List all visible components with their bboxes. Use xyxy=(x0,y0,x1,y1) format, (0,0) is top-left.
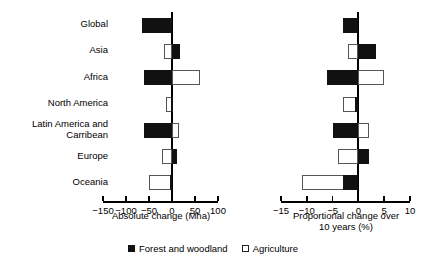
x-axis-end-cap xyxy=(409,196,411,201)
plot-area xyxy=(0,12,426,198)
figure-root: GlobalAsiaAfricaNorth AmericaLatin Ameri… xyxy=(0,0,426,265)
x-axis-tick xyxy=(358,196,360,201)
bar-forest xyxy=(355,97,358,112)
bar-agriculture xyxy=(358,123,368,138)
bar-agriculture xyxy=(338,149,359,164)
bar-forest xyxy=(358,44,376,59)
bar-forest xyxy=(144,70,172,85)
legend-item-agriculture: Agriculture xyxy=(242,243,298,254)
bar-forest xyxy=(171,97,173,112)
x-axis-tick xyxy=(383,196,385,201)
chart-legend: Forest and woodland Agriculture xyxy=(0,243,426,254)
legend-swatch-agriculture-icon xyxy=(242,245,249,252)
x-axis-title: Proportional change over 10 years (%) xyxy=(272,210,420,232)
bar-agriculture xyxy=(149,175,172,190)
bar-agriculture xyxy=(358,70,384,85)
bar-forest xyxy=(144,123,172,138)
bar-forest xyxy=(172,44,180,59)
x-axis-line xyxy=(103,201,218,203)
x-axis-tick xyxy=(306,196,308,201)
bar-forest xyxy=(172,149,177,164)
bar-agriculture xyxy=(172,123,179,138)
bar-forest xyxy=(142,18,172,33)
x-axis-tick xyxy=(332,196,334,201)
bar-agriculture xyxy=(348,44,358,59)
bar-forest xyxy=(170,175,172,190)
legend-label-agriculture: Agriculture xyxy=(253,243,298,254)
x-axis-title: Absolute change (Mha) xyxy=(100,210,222,221)
x-axis-end-cap xyxy=(280,196,282,201)
bar-forest xyxy=(333,123,359,138)
bar-forest xyxy=(343,175,358,190)
bar-agriculture xyxy=(162,149,172,164)
legend-item-forest: Forest and woodland xyxy=(128,243,228,254)
bar-agriculture xyxy=(164,44,172,59)
bar-forest xyxy=(358,149,368,164)
bar-forest xyxy=(327,70,358,85)
bar-agriculture xyxy=(172,70,200,85)
legend-label-forest: Forest and woodland xyxy=(139,243,228,254)
x-axis-line xyxy=(281,201,410,203)
bar-forest xyxy=(343,18,358,33)
legend-swatch-forest-icon xyxy=(128,245,135,252)
